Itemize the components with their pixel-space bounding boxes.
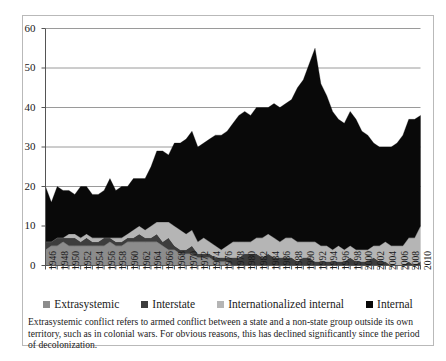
y-tick-label: 10 <box>12 220 36 231</box>
y-tick-label: 20 <box>12 181 36 192</box>
x-tick-label: 1986 <box>283 251 293 270</box>
y-tick-label: 50 <box>12 62 36 73</box>
x-tick-label: 2010 <box>424 251 434 270</box>
chart-legend: ExtrasystemicInterstateInternationalized… <box>24 296 432 312</box>
legend-item: Internationalized internal <box>217 298 344 310</box>
figure-caption: Extrasystemic conflict refers to armed c… <box>28 316 428 351</box>
legend-label: Internationalized internal <box>228 298 344 310</box>
x-tick-label: 1964 <box>154 251 164 270</box>
y-tick-label: 30 <box>12 141 36 152</box>
x-tick-label: 1960 <box>131 251 141 270</box>
y-tick-label: 0 <box>12 260 36 271</box>
x-tick-label: 1998 <box>354 251 364 270</box>
x-tick-label: 1984 <box>272 251 282 270</box>
y-tick-label: 60 <box>12 23 36 34</box>
legend-swatch-icon <box>217 301 224 308</box>
x-tick-label: 1968 <box>178 251 188 270</box>
x-tick-label: 1970 <box>190 251 200 270</box>
x-tick-label: 2002 <box>377 251 387 270</box>
x-tick-label: 1954 <box>96 251 106 270</box>
x-tick-label: 1974 <box>213 251 223 270</box>
x-tick-label: 1956 <box>108 251 118 270</box>
x-tick-label: 1966 <box>166 251 176 270</box>
x-tick-label: 1988 <box>295 251 305 270</box>
x-tick-label: 1990 <box>307 251 317 270</box>
legend-item: Interstate <box>141 298 195 310</box>
x-tick-label: 2008 <box>412 251 422 270</box>
x-tick-label: 1980 <box>248 251 258 270</box>
x-tick-label: 1996 <box>342 251 352 270</box>
figure-container: 0102030405060 19461948195019521954195619… <box>0 0 446 361</box>
x-tick-label: 1994 <box>330 251 340 270</box>
x-tick-label: 1952 <box>84 251 94 270</box>
x-tick-label: 1948 <box>61 251 71 270</box>
x-tick-label: 2006 <box>401 251 411 270</box>
legend-label: Internal <box>377 298 413 310</box>
legend-label: Interstate <box>152 298 195 310</box>
x-tick-label: 2000 <box>365 251 375 270</box>
x-tick-label: 1962 <box>143 251 153 270</box>
x-tick-label: 2004 <box>389 251 399 270</box>
x-tick-label: 1976 <box>225 251 235 270</box>
area-series-internal <box>46 48 421 249</box>
legend-label: Extrasystemic <box>54 298 119 310</box>
x-tick-label: 1992 <box>319 251 329 270</box>
legend-swatch-icon <box>43 301 50 308</box>
x-tick-label: 1958 <box>119 251 129 270</box>
legend-swatch-icon <box>141 301 148 308</box>
x-tick-label: 1946 <box>49 251 59 270</box>
y-tick-label: 40 <box>12 102 36 113</box>
x-tick-label: 1972 <box>201 251 211 270</box>
legend-item: Extrasystemic <box>43 298 119 310</box>
x-tick-label: 1950 <box>72 251 82 270</box>
legend-item: Internal <box>366 298 413 310</box>
legend-swatch-icon <box>366 301 373 308</box>
x-tick-label: 1978 <box>237 251 247 270</box>
x-tick-label: 1982 <box>260 251 270 270</box>
